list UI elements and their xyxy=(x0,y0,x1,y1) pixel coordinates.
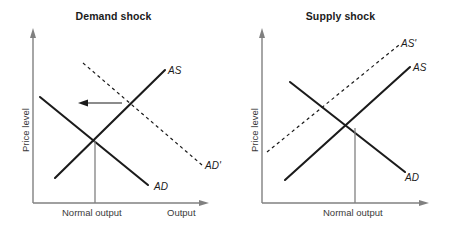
curve-as-supply xyxy=(285,67,410,180)
curve-label-ad-supply: AD xyxy=(405,172,419,183)
x-tick-label-normal-output-supply: Normal output xyxy=(323,207,383,218)
leftward-shift-arrow xyxy=(78,100,122,107)
curve-label-ad-demand: AD xyxy=(154,181,168,192)
curve-ad xyxy=(40,97,148,185)
supply-shock-plot xyxy=(227,0,454,232)
demand-axes xyxy=(30,28,209,206)
curve-label-as-demand: AS xyxy=(168,65,181,76)
economics-figure: Demand shock Price level xyxy=(0,0,454,232)
x-tick-label-normal-output-demand: Normal output xyxy=(62,207,122,218)
curve-label-ad-shifted: AD' xyxy=(205,160,221,171)
curve-ad-shifted xyxy=(83,63,202,165)
panel-supply-shock: Supply shock Price level Normal output A… xyxy=(227,0,454,232)
y-axis-label-price-level-supply: Price level xyxy=(249,108,260,152)
y-axis-label-price-level-demand: Price level xyxy=(20,108,31,152)
curve-label-as-supply: AS xyxy=(413,62,426,73)
panel-demand-shock: Demand shock Price level xyxy=(0,0,227,232)
curve-label-as-shifted: AS' xyxy=(401,38,416,49)
x-axis-label-output: Output xyxy=(167,207,196,218)
demand-shock-plot xyxy=(0,0,227,232)
